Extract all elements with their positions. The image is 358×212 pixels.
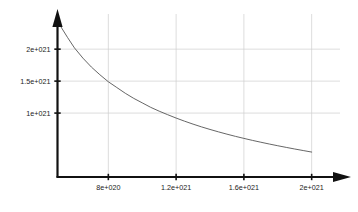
x-axis-tick-label: 2e+021 <box>300 183 324 192</box>
decay-line-chart: 1e+0211.5e+0212e+021 8e+0201.2e+0211.6e+… <box>0 0 358 212</box>
chart-figure: 1e+0211.5e+0212e+021 8e+0201.2e+0211.6e+… <box>0 0 358 212</box>
y-axis-tick-label: 1.5e+021 <box>20 77 50 86</box>
x-axis-tick-label: 1.2e+021 <box>161 183 191 192</box>
y-axis-tick-label: 2e+021 <box>26 45 50 54</box>
y-axis-tick-label: 1e+021 <box>26 109 50 118</box>
plot-background <box>0 0 358 212</box>
x-axis-tick-label: 8e+020 <box>96 183 120 192</box>
x-axis-tick-label: 1.6e+021 <box>229 183 259 192</box>
